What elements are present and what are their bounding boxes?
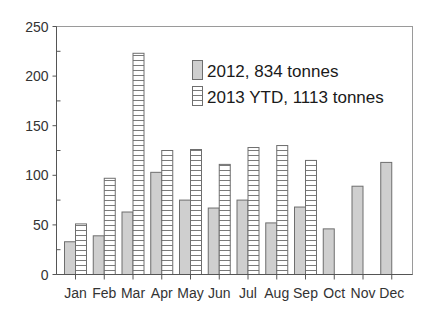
bar-2013-aug: [277, 146, 288, 275]
x-tick-label-may: May: [177, 285, 203, 301]
x-tick-label-aug: Aug: [264, 285, 289, 301]
x-tick-label-feb: Feb: [92, 285, 116, 301]
legend-item-2012: 2012, 834 tonnes: [193, 61, 339, 82]
bars-group: [65, 53, 392, 274]
bar-2013-may: [191, 150, 202, 275]
legend-swatch-2013: [193, 87, 203, 106]
y-tick-label: 0: [41, 267, 49, 283]
bar-2013-jul: [248, 148, 259, 275]
bar-2013-apr: [162, 151, 173, 275]
bar-chart: 050100150200250 JanFebMarAprMayJunJulAug…: [0, 0, 436, 317]
legend-label-2012: 2012, 834 tonnes: [207, 62, 338, 81]
bar-2012-apr: [151, 172, 162, 274]
bar-2013-jun: [219, 164, 230, 274]
x-tick-label-jul: Jul: [239, 285, 257, 301]
y-tick-label: 150: [25, 118, 49, 134]
bar-2012-mar: [122, 212, 133, 274]
bar-2012-may: [180, 200, 191, 274]
bar-2012-feb: [93, 236, 104, 275]
legend: 2012, 834 tonnes 2013 YTD, 1113 tonnes: [193, 61, 384, 108]
bar-2012-oct: [323, 229, 334, 275]
x-tick-label-apr: Apr: [151, 285, 173, 301]
bar-2012-jul: [237, 200, 248, 274]
y-tick-label: 200: [25, 68, 49, 84]
x-tick-label-oct: Oct: [323, 285, 345, 301]
y-tick-label: 100: [25, 167, 49, 183]
x-axis: JanFebMarAprMayJunJulAugSepOctNovDec: [57, 275, 413, 302]
bar-2013-feb: [104, 178, 115, 274]
bar-2013-mar: [133, 53, 144, 274]
x-tick-label-jan: Jan: [64, 285, 87, 301]
x-tick-label-sep: Sep: [293, 285, 318, 301]
bar-2012-dec: [381, 162, 392, 274]
bar-2012-jan: [65, 242, 76, 275]
bar-2012-nov: [352, 186, 363, 274]
bar-2013-sep: [306, 160, 317, 274]
legend-label-2013: 2013 YTD, 1113 tonnes: [207, 88, 384, 107]
x-tick-label-jun: Jun: [208, 285, 231, 301]
bar-2013-jan: [76, 224, 87, 275]
y-tick-label: 250: [25, 19, 49, 35]
bar-2012-sep: [295, 207, 306, 274]
legend-swatch-2012: [193, 61, 203, 80]
bar-2012-jun: [208, 208, 219, 274]
x-tick-label-dec: Dec: [379, 285, 404, 301]
bar-2012-aug: [266, 223, 277, 275]
y-axis: 050100150200250: [25, 19, 60, 283]
y-tick-label: 50: [33, 217, 49, 233]
x-tick-label-mar: Mar: [121, 285, 145, 301]
legend-item-2013: 2013 YTD, 1113 tonnes: [193, 87, 384, 108]
x-tick-label-nov: Nov: [351, 285, 376, 301]
